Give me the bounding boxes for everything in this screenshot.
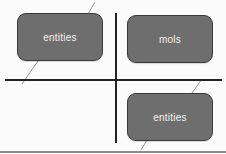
node-label: entities: [153, 112, 186, 123]
node-entities-top-left[interactable]: entities: [17, 13, 103, 61]
connector-node1-bottom: [22, 61, 38, 84]
diagram-canvas: entities mols entities: [0, 0, 226, 154]
node-label: mols: [159, 34, 181, 45]
node-label: entities: [43, 32, 76, 43]
vertical-divider: [115, 13, 117, 143]
horizontal-divider: [5, 79, 222, 81]
connector-node3-top: [192, 79, 202, 93]
connector-node3-bottom: [141, 140, 147, 150]
node-entities-bottom-right[interactable]: entities: [127, 93, 213, 141]
bottom-rule: [0, 151, 226, 153]
node-mols[interactable]: mols: [127, 15, 213, 63]
